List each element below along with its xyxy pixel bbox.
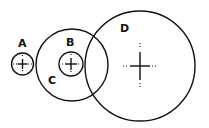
label-c: C: [48, 74, 56, 87]
center-mark-a-icon: [13, 55, 32, 73]
label-d: D: [120, 22, 129, 35]
label-b: B: [66, 36, 74, 49]
center-mark-d-icon: [123, 43, 157, 88]
circle-diagram: A B C D: [0, 0, 209, 128]
center-mark-b-icon: [62, 54, 81, 74]
label-a: A: [18, 37, 27, 50]
